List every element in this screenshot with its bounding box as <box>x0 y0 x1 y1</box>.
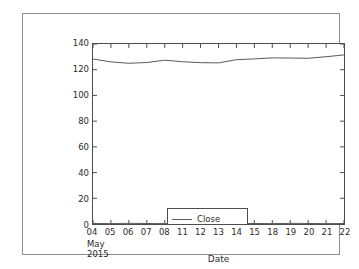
axis-tick-marks <box>93 44 344 224</box>
y-tick-label: 120 <box>63 65 89 74</box>
legend-line-swatch-icon <box>172 219 192 220</box>
x-axis-title: Date <box>92 254 345 264</box>
y-tick-label: 140 <box>63 39 89 48</box>
x-tick-label: 21 <box>317 227 337 237</box>
figure-frame: 140 120 100 80 60 40 20 0 Close <box>22 13 340 255</box>
x-axis-tick-labels: 040506070811121314151819202122 <box>92 227 345 239</box>
y-tick-label: 100 <box>63 91 89 100</box>
y-axis-tick-labels: 140 120 100 80 60 40 20 0 <box>60 43 89 225</box>
plot-area: Close sentiment <box>92 43 345 225</box>
x-tick-label: 14 <box>227 227 247 237</box>
x-tick-label: 04 <box>82 227 102 237</box>
x-tick-label: 13 <box>209 227 229 237</box>
x-tick-label: 06 <box>118 227 138 237</box>
chart-legend[interactable]: Close sentiment <box>167 208 248 225</box>
x-tick-label: 07 <box>136 227 156 237</box>
series-line-close <box>93 55 344 63</box>
y-tick-label: 60 <box>63 143 89 152</box>
x-tick-label: 18 <box>263 227 283 237</box>
legend-entry-close: Close <box>172 211 247 225</box>
y-tick-label: 20 <box>63 195 89 204</box>
y-tick-label: 80 <box>63 117 89 126</box>
plot-svg <box>93 44 344 224</box>
x-tick-label: 20 <box>299 227 319 237</box>
x-tick-label: 19 <box>281 227 301 237</box>
x-tick-label: 05 <box>100 227 120 237</box>
figure-canvas: 140 120 100 80 60 40 20 0 Close <box>0 0 359 269</box>
x-tick-label: 08 <box>154 227 174 237</box>
x-tick-label: 22 <box>335 227 355 237</box>
y-tick-label: 40 <box>63 169 89 178</box>
x-tick-label: 15 <box>245 227 265 237</box>
legend-label: Close <box>197 214 220 225</box>
x-tick-label: 12 <box>190 227 210 237</box>
x-tick-label: 11 <box>172 227 192 237</box>
